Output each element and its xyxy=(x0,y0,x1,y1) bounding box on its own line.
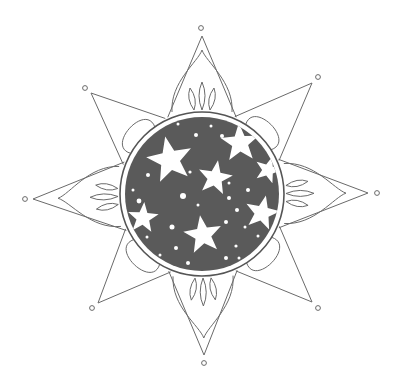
leaf-east-0 xyxy=(286,180,308,187)
night-sky-disc xyxy=(125,117,279,271)
star-dot xyxy=(244,226,247,229)
tip-dot-west xyxy=(23,197,28,202)
leaf-south-2 xyxy=(190,278,197,300)
arch-east xyxy=(284,163,346,223)
tip-dot-east xyxy=(375,191,380,196)
star-dot xyxy=(137,199,142,204)
star-dot xyxy=(146,173,150,177)
leaf-south-1 xyxy=(200,278,206,306)
ray-north xyxy=(168,36,237,117)
leaf-east-1 xyxy=(286,190,314,196)
star-dot xyxy=(234,244,237,247)
star-dot xyxy=(224,220,228,224)
tip-dot-south xyxy=(202,361,207,366)
star-compass-illustration xyxy=(0,0,403,390)
arch-south xyxy=(173,276,233,338)
star-dot xyxy=(224,256,228,260)
star-dot xyxy=(220,134,224,138)
arch-north xyxy=(172,50,232,112)
star-dot xyxy=(210,125,213,128)
star-dot xyxy=(159,254,162,257)
star-dot xyxy=(257,235,260,238)
leaf-east-2 xyxy=(286,200,308,207)
ray-west xyxy=(33,162,126,230)
star-dot xyxy=(177,123,180,126)
star-dot xyxy=(180,193,186,199)
star-dot xyxy=(186,261,190,265)
star-dot xyxy=(132,189,135,192)
tip-dot-north xyxy=(199,26,204,31)
star-dot xyxy=(235,208,239,212)
star-dot xyxy=(227,196,231,200)
star-dot xyxy=(146,236,149,239)
ray-south xyxy=(169,270,237,355)
tip-dot-southwest xyxy=(90,306,95,311)
star-dot xyxy=(170,225,175,230)
star-dot xyxy=(238,257,241,260)
leaf-west-2 xyxy=(96,184,118,190)
star-dot xyxy=(246,188,250,192)
star-dot xyxy=(228,182,231,185)
leaf-west-1 xyxy=(90,194,118,200)
tip-dot-southeast xyxy=(316,306,321,311)
tip-dot-northeast xyxy=(316,75,321,80)
leaf-north-1 xyxy=(199,82,205,110)
star-dot xyxy=(174,246,178,250)
tip-dot-northwest xyxy=(83,86,88,91)
leaf-north-0 xyxy=(189,88,196,110)
leaf-south-0 xyxy=(210,278,217,300)
star-dot xyxy=(197,204,200,207)
star-dot xyxy=(194,133,198,137)
leaf-west-0 xyxy=(96,203,118,210)
star-dot xyxy=(188,170,191,173)
ray-east xyxy=(278,159,368,228)
leaf-north-2 xyxy=(209,88,216,110)
